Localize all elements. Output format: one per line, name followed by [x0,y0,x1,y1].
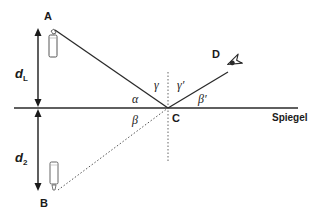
mirror-reflection-diagram: Spiegel dL d2 A B C [0,0,311,216]
distance-arrow-dL [35,28,42,107]
distance-label-dL: dL [15,66,28,83]
point-label-A: A [44,10,52,22]
angle-label-gamma-prime: γ′ [177,78,185,92]
angle-label-beta: β [131,113,138,127]
mirror-label: Spiegel [272,112,308,123]
candle-icon [49,29,57,57]
distance-arrow-d2 [35,109,42,191]
incident-ray [55,30,168,108]
angle-label-alpha: α [132,92,139,106]
point-label-C: C [172,112,180,124]
angle-label-beta-prime: β′ [197,92,207,106]
eye-icon [225,54,242,69]
angle-label-gamma: γ [154,78,159,92]
point-label-D: D [212,48,220,60]
virtual-ray [58,108,168,190]
candle-image-icon [50,162,58,190]
distance-label-d2: d2 [15,150,28,167]
point-label-B: B [40,197,48,209]
